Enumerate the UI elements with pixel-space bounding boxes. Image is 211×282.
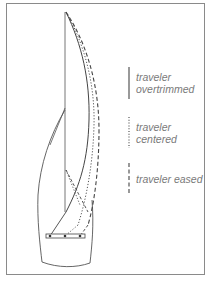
legend-item-eased: traveler eased [128, 173, 203, 185]
mainsheet-overtrimmed [50, 212, 66, 236]
mainsheet-centered [65, 170, 80, 236]
legend-item-overtrimmed: traveler overtrimmed [128, 71, 194, 95]
boat-diagram [0, 0, 211, 282]
legend-label-centered: traveler centered [136, 121, 177, 145]
legend-label-eased: traveler eased [136, 173, 203, 185]
sail-centered [66, 12, 94, 225]
sail-overtrimmed [66, 12, 89, 212]
mainsheet-eased [66, 170, 88, 236]
legend-label-overtrimmed: traveler overtrimmed [136, 71, 194, 95]
traveler-car-overtrimmed [49, 235, 52, 238]
jib-line [50, 108, 65, 145]
legend-item-centered: traveler centered [128, 121, 177, 145]
traveler-car-centered [64, 235, 67, 238]
traveler-car-eased [79, 235, 82, 238]
